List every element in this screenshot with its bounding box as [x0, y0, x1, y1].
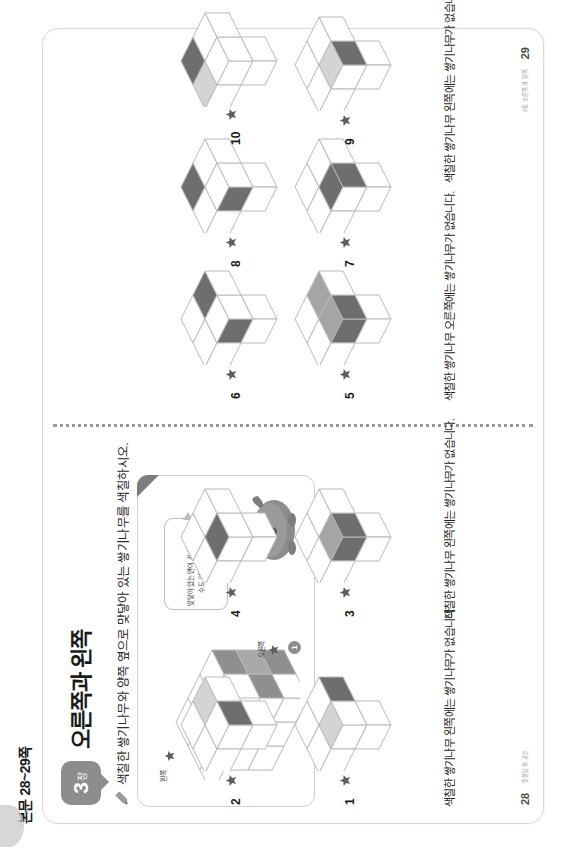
problem-3-star-icon — [339, 586, 352, 599]
page-footer-right: 3장 오른쪽과 왼쪽 — [521, 69, 529, 112]
screenshot-root: 본문 28~29쪽 3장 오른쪽과 왼쪽 색칠한 쌓기나무와 양쪽 옆으로 맞닿… — [0, 0, 572, 854]
problem-6-number: 6 — [229, 392, 243, 399]
problem-5-figure[interactable] — [285, 235, 405, 365]
chapter-tab: 3장 — [61, 761, 101, 805]
problem-5-number: 5 — [343, 392, 357, 399]
chapter-unit-label: 장 — [74, 772, 89, 781]
note-2: 색칠한 쌓기나무 왼쪽에는 쌓기나무가 없습니다. — [441, 419, 457, 619]
problem-8-number: 8 — [229, 260, 243, 267]
instruction-text: 색칠한 쌓기나무와 양쪽 옆으로 맞닿아 있는 쌓기나무를 색칠하시오. — [113, 443, 132, 785]
problem-8-figure[interactable] — [171, 103, 291, 233]
problem-10-star-icon — [225, 108, 238, 121]
note-4: 색칠한 쌓기나무 왼쪽에는 쌓기나무가 없습니다. — [441, 0, 457, 183]
problem-4-star-icon — [225, 586, 238, 599]
problem-5-star-icon — [339, 368, 352, 381]
problem-3-number: 3 — [343, 610, 357, 617]
problem-7-number: 7 — [343, 260, 357, 267]
problem-7-star-icon — [339, 236, 352, 249]
problem-10-number: 10 — [229, 132, 243, 145]
problem-4-figure[interactable] — [171, 453, 291, 583]
chapter-number: 3장 — [61, 761, 101, 805]
pencil-icon — [115, 791, 129, 805]
problem-1-figure[interactable] — [285, 641, 405, 771]
page-number-right: 29 — [519, 47, 531, 59]
problem-2-number: 2 — [229, 798, 243, 805]
dogear-corner-icon — [137, 475, 159, 497]
page-number-left: 28 — [519, 793, 531, 805]
note-1: 색칠한 쌓기나무 왼쪽에는 쌓기나무가 없습니다. — [441, 607, 457, 807]
chapter-number-value: 3 — [69, 782, 93, 794]
problem-6-figure[interactable] — [171, 235, 291, 365]
page-title: 오른쪽과 왼쪽 — [63, 630, 95, 749]
example-left-label: 왼쪽 — [158, 771, 168, 782]
problem-9-figure[interactable] — [285, 0, 405, 111]
page-spine-divider — [53, 424, 533, 427]
problem-1-number: 1 — [343, 798, 357, 805]
problem-6-star-icon — [225, 368, 238, 381]
problem-9-star-icon — [339, 114, 352, 127]
note-3: 색칠한 쌓기나무 오른쪽에는 쌓기나무가 없습니다. — [441, 191, 457, 401]
worksheet-sheet: 3장 오른쪽과 왼쪽 색칠한 쌓기나무와 양쪽 옆으로 맞닿아 있는 쌓기나무를… — [42, 28, 544, 824]
problem-9-number: 9 — [343, 138, 357, 145]
problem-1-star-icon — [339, 774, 352, 787]
problem-8-star-icon — [225, 236, 238, 249]
page-footer-left: 알쏭달쏭 공간 — [521, 750, 529, 783]
problem-4-number: 4 — [229, 610, 243, 617]
problem-2-star-icon — [225, 774, 238, 787]
problem-2-figure[interactable] — [171, 641, 291, 771]
problem-3-figure[interactable] — [285, 453, 405, 583]
problem-10-figure[interactable] — [171, 0, 291, 107]
workbook-page: 본문 28~29쪽 3장 오른쪽과 왼쪽 색칠한 쌓기나무와 양쪽 옆으로 맞닿… — [0, 0, 572, 854]
